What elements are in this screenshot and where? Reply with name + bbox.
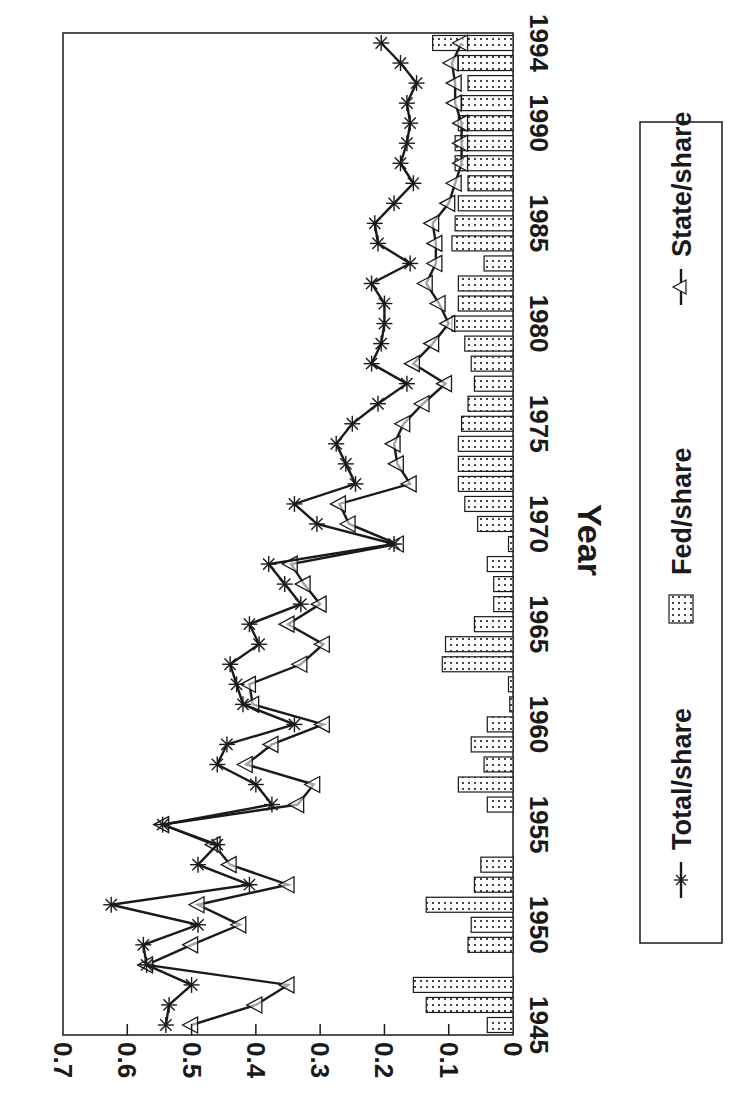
asterisk-marker bbox=[155, 817, 171, 833]
fed-bar bbox=[474, 376, 513, 391]
asterisk-marker bbox=[399, 376, 415, 392]
triangle-marker bbox=[292, 656, 307, 672]
asterisk-marker bbox=[135, 937, 151, 953]
dotted-box-icon bbox=[669, 595, 693, 623]
legend-label: Fed/share bbox=[667, 447, 697, 575]
asterisk-marker bbox=[364, 275, 380, 291]
fed-bar bbox=[462, 96, 513, 111]
asterisk-marker bbox=[251, 636, 267, 652]
asterisk-marker bbox=[241, 616, 257, 632]
triangle-marker bbox=[279, 616, 294, 632]
fed-bar bbox=[509, 677, 514, 692]
fed-bar bbox=[471, 737, 513, 752]
asterisk-marker bbox=[402, 255, 418, 271]
asterisk-marker bbox=[264, 797, 280, 813]
fed-bar bbox=[458, 456, 513, 471]
fed-bar bbox=[458, 777, 513, 792]
asterisk-marker bbox=[367, 215, 383, 231]
fed-bar bbox=[468, 76, 513, 91]
fed-bar bbox=[426, 997, 513, 1012]
fed-bar bbox=[413, 977, 513, 992]
asterisk-marker bbox=[386, 195, 402, 211]
asterisk-marker bbox=[344, 416, 360, 432]
year-tick-label: 1945 bbox=[524, 996, 554, 1054]
asterisk-marker bbox=[190, 917, 206, 933]
fed-bar bbox=[468, 937, 513, 952]
year-tick-label: 1960 bbox=[524, 695, 554, 753]
triangle-marker bbox=[231, 917, 246, 933]
asterisk-marker bbox=[158, 1017, 174, 1033]
fed-bar bbox=[487, 557, 513, 572]
fed-bar bbox=[481, 857, 513, 872]
triangle-marker bbox=[247, 997, 262, 1013]
asterisk-marker bbox=[184, 977, 200, 993]
legend-label: Total/share bbox=[667, 708, 697, 850]
asterisk-marker bbox=[222, 656, 238, 672]
triangle-marker bbox=[443, 55, 458, 71]
fed-bar bbox=[494, 577, 513, 592]
triangle-marker bbox=[289, 797, 304, 813]
fed-bar bbox=[455, 216, 513, 231]
chart-canvas: 00.10.20.30.40.50.60.7 19451950195519601… bbox=[0, 0, 748, 1098]
asterisk-marker bbox=[399, 135, 415, 151]
series-line bbox=[147, 43, 462, 1025]
chart-figure: 00.10.20.30.40.50.60.7 19451950195519601… bbox=[0, 0, 748, 1098]
asterisk-marker bbox=[386, 536, 402, 552]
fed-bar bbox=[458, 276, 513, 291]
asterisk-marker bbox=[376, 296, 392, 312]
year-tick-label: 1985 bbox=[524, 194, 554, 252]
fed-bar bbox=[478, 516, 513, 531]
triangle-marker bbox=[404, 356, 419, 372]
fed-bar bbox=[487, 717, 513, 732]
value-tick-label: 0 bbox=[498, 1042, 528, 1056]
asterisk-marker bbox=[293, 596, 309, 612]
asterisk-marker bbox=[209, 756, 225, 772]
year-tick-label: 1955 bbox=[524, 796, 554, 854]
fed-bar bbox=[509, 537, 514, 552]
asterisk-marker bbox=[103, 897, 119, 913]
asterisk-marker bbox=[405, 175, 421, 191]
asterisk-marker bbox=[409, 75, 425, 91]
asterisk-marker bbox=[209, 837, 225, 853]
triangle-marker bbox=[440, 195, 455, 211]
asterisk-marker bbox=[364, 356, 380, 372]
asterisk-marker bbox=[376, 316, 392, 332]
triangle-marker bbox=[189, 897, 204, 913]
asterisk-marker bbox=[219, 736, 235, 752]
asterisk-marker bbox=[286, 496, 302, 512]
fed-bar bbox=[474, 617, 513, 632]
legend-label: State/share bbox=[667, 111, 697, 257]
triangle-marker bbox=[305, 777, 320, 793]
asterisk-marker bbox=[139, 957, 155, 973]
rotated-chart-group: 00.10.20.30.40.50.60.7 19451950195519601… bbox=[48, 14, 722, 1079]
fed-bar bbox=[458, 196, 513, 211]
value-tick-label: 0.3 bbox=[305, 1042, 335, 1078]
year-tick-label: 1950 bbox=[524, 896, 554, 954]
fed-bar bbox=[452, 236, 513, 251]
total-share-line bbox=[103, 35, 424, 1033]
value-tick-label: 0.6 bbox=[112, 1042, 142, 1078]
asterisk-marker bbox=[261, 556, 277, 572]
triangle-marker bbox=[295, 576, 310, 592]
fed-bar bbox=[465, 496, 513, 511]
fed-bar bbox=[471, 356, 513, 371]
asterisk-marker bbox=[161, 997, 177, 1013]
triangle-marker bbox=[183, 1017, 198, 1033]
fed-bar bbox=[510, 697, 513, 712]
triangle-marker bbox=[446, 95, 461, 111]
fed-share-bars bbox=[413, 36, 513, 1033]
asterisk-marker bbox=[393, 155, 409, 171]
year-tick-label: 1980 bbox=[524, 295, 554, 353]
legend-item: Fed/share bbox=[667, 447, 697, 623]
fed-bar bbox=[484, 256, 513, 271]
fed-bar bbox=[426, 897, 513, 912]
year-tick-label: 1975 bbox=[524, 395, 554, 453]
asterisk-marker bbox=[370, 235, 386, 251]
triangle-marker bbox=[385, 436, 400, 452]
asterisk-marker bbox=[399, 95, 415, 111]
fed-bar bbox=[462, 416, 513, 431]
fed-bar bbox=[446, 637, 514, 652]
year-tick-label: 1965 bbox=[524, 595, 554, 653]
asterisk-marker bbox=[241, 877, 257, 893]
year-tick-label: 1994 bbox=[524, 14, 554, 72]
